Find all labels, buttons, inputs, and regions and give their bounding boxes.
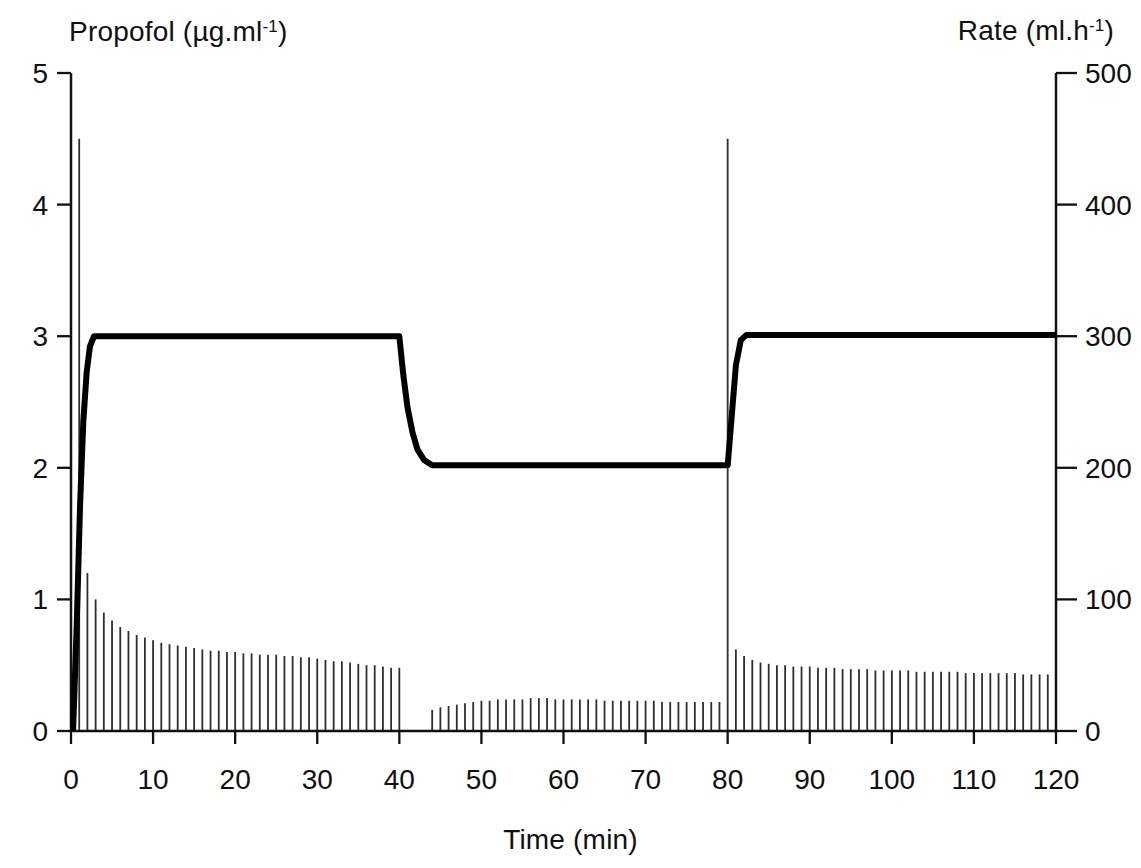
y-right-tick-label: 200 [1085,453,1132,484]
x-axis-tick-label: 110 [952,764,997,795]
left-axis-title-superscript: -1 [262,17,278,36]
right-axis-title-suffix: ) [1104,15,1114,46]
right-axis-title-text: Rate (ml.h [958,15,1089,46]
x-axis-title: Time (min) [0,824,1141,856]
y-left-tick-label: 3 [32,321,48,352]
y-right-tick-label: 100 [1085,584,1132,615]
x-axis-tick-label: 60 [548,764,579,795]
x-axis-tick-label: 90 [794,764,825,795]
y-left-tick-label: 0 [32,716,48,747]
left-axis-title-text: Propofol (µg.ml [69,16,262,47]
x-axis-tick-label: 80 [712,764,743,795]
left-axis-title-suffix: ) [278,16,288,47]
x-axis-tick-label: 100 [868,764,915,795]
x-axis-tick-label: 120 [1033,764,1080,795]
chart-figure: Propofol (µg.ml-1) Rate (ml.h-1) Time (m… [0,0,1141,868]
y-left-tick-label: 4 [32,190,48,221]
x-axis-tick-label: 30 [302,764,333,795]
y-left-tick-label: 2 [32,453,48,484]
x-axis-tick-label: 0 [63,764,79,795]
y-left-tick-label: 1 [32,584,48,615]
x-axis-tick-label: 40 [384,764,415,795]
y-right-tick-label: 400 [1085,190,1132,221]
left-axis-title: Propofol (µg.ml-1) [69,16,287,48]
y-right-tick-label: 0 [1085,716,1101,747]
x-axis-tick-label: 50 [466,764,497,795]
right-axis-title-superscript: -1 [1089,16,1105,35]
x-axis-tick-label: 10 [138,764,169,795]
right-axis-title: Rate (ml.h-1) [958,15,1114,47]
y-right-tick-label: 300 [1085,321,1132,352]
x-axis-tick-label: 20 [220,764,251,795]
y-right-tick-label: 500 [1085,58,1132,89]
y-left-tick-label: 5 [32,58,48,89]
x-axis-title-text: Time (min) [503,824,638,855]
x-axis-tick-label: 70 [630,764,661,795]
chart-canvas: 0123450100200300400500010203040506070809… [0,0,1141,868]
